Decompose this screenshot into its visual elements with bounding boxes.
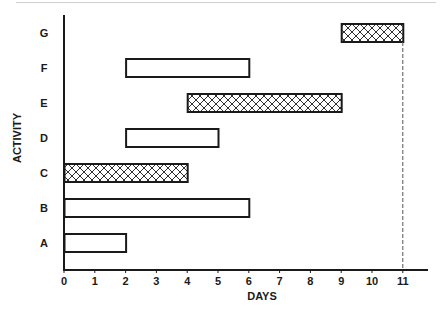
task-bar-c [65, 164, 188, 182]
activity-label-f: F [41, 62, 48, 74]
x-tick-label: 7 [277, 275, 283, 287]
task-bar-f [126, 59, 249, 77]
x-axis-ticks: 01234567891011 [61, 270, 409, 287]
x-tick-label: 9 [338, 275, 344, 287]
bars-group [65, 24, 404, 252]
x-tick-label: 0 [61, 275, 67, 287]
x-tick-label: 5 [215, 275, 221, 287]
task-bar-g [342, 24, 404, 42]
x-tick-label: 8 [307, 275, 313, 287]
x-tick-label: 11 [397, 275, 409, 287]
y-axis-title: ACTIVITY [11, 112, 23, 163]
x-tick-label: 4 [184, 275, 191, 287]
x-tick-label: 3 [153, 275, 159, 287]
x-tick-label: 6 [246, 275, 252, 287]
y-axis-categories: ABCDEFG [40, 27, 49, 249]
x-axis-title: DAYS [247, 290, 277, 302]
task-bar-e [188, 94, 342, 112]
activity-label-b: B [40, 202, 48, 214]
activity-label-e: E [40, 97, 47, 109]
task-bar-b [65, 199, 250, 217]
activity-label-a: A [40, 237, 48, 249]
activity-label-g: G [40, 27, 49, 39]
x-tick-label: 2 [123, 275, 129, 287]
task-bar-d [126, 129, 218, 147]
task-bar-a [65, 234, 127, 252]
activity-label-d: D [40, 132, 48, 144]
activity-label-c: C [40, 167, 48, 179]
x-tick-label: 10 [366, 275, 378, 287]
gantt-chart: 01234567891011 ABCDEFG DAYS ACTIVITY [0, 0, 444, 309]
x-tick-label: 1 [92, 275, 98, 287]
